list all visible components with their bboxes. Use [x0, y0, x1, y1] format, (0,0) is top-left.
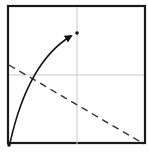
- target-point: [75, 31, 79, 35]
- origami-diagram: [0, 0, 148, 152]
- corner-point: [7, 143, 11, 147]
